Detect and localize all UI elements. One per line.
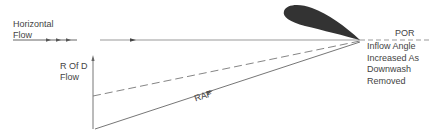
inflow-dashed-line bbox=[93, 41, 360, 96]
rofd-label-line2: Flow bbox=[60, 72, 88, 83]
rofd-flow-label: R Of D Flow bbox=[60, 61, 88, 83]
inflow-label-line1: Inflow Angle bbox=[367, 41, 419, 53]
airfoil-shape bbox=[284, 5, 360, 40]
por-label: POR bbox=[395, 28, 415, 39]
arrow-up-icon bbox=[91, 55, 94, 61]
inflow-label-line2: Increased As bbox=[367, 53, 419, 65]
inflow-angle-label: Inflow Angle Increased As Downwash Remov… bbox=[367, 41, 419, 87]
flow-arrowhead-icon bbox=[56, 38, 61, 42]
inflow-label-line4: Removed bbox=[367, 76, 419, 88]
main-flow-arrowhead-icon bbox=[130, 38, 136, 42]
raf-line bbox=[95, 42, 360, 129]
horizontal-flow-label-line1: Horizontal bbox=[13, 19, 54, 30]
horizontal-flow-label-line2: Flow bbox=[13, 30, 54, 41]
rofd-label-line1: R Of D bbox=[60, 61, 88, 72]
flow-arrowhead-icon bbox=[66, 38, 71, 42]
inflow-label-line3: Downwash bbox=[367, 64, 419, 76]
horizontal-flow-label: Horizontal Flow bbox=[13, 19, 54, 41]
